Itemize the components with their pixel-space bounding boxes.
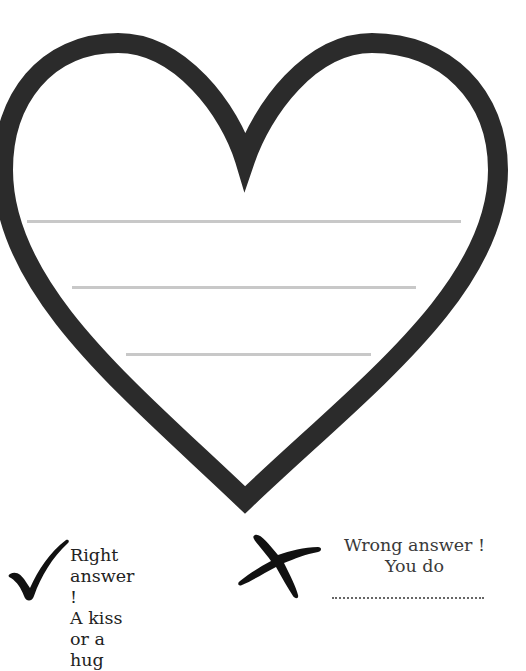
writing-line-3[interactable]: [126, 353, 371, 356]
right-answer-line2: A kiss or a hug: [70, 608, 134, 671]
wrong-answer-line1: Wrong answer !: [322, 535, 507, 556]
cross-mark-icon: [238, 533, 322, 599]
check-mark-icon: [8, 538, 70, 602]
writing-line-1[interactable]: [27, 220, 461, 223]
right-answer-line1: Right answer !: [70, 545, 134, 608]
heart-outline: [0, 0, 526, 530]
wrong-answer-blank-line[interactable]: [332, 597, 484, 599]
right-answer-text: Right answer ! A kiss or a hug: [70, 545, 134, 671]
wrong-answer-line2: You do: [322, 556, 507, 577]
writing-line-2[interactable]: [72, 286, 416, 289]
wrong-answer-text: Wrong answer ! You do: [322, 535, 507, 577]
